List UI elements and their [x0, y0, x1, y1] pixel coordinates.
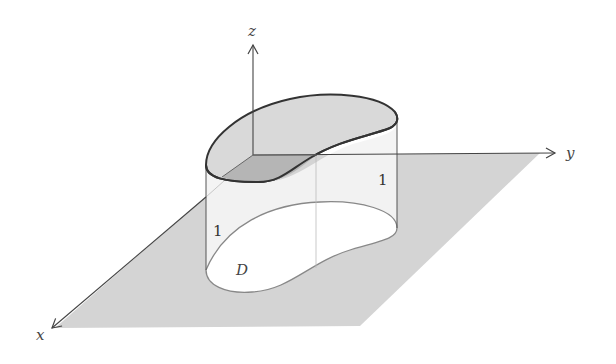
height-label-right: 1 — [378, 173, 388, 188]
z-axis-label: z — [248, 24, 256, 39]
y-axis-label: y — [566, 146, 574, 161]
height-label-left: 1 — [213, 224, 223, 239]
cylinder-over-region-diagram — [0, 0, 616, 364]
region-label: D — [236, 263, 248, 278]
x-axis-label: x — [36, 328, 44, 343]
